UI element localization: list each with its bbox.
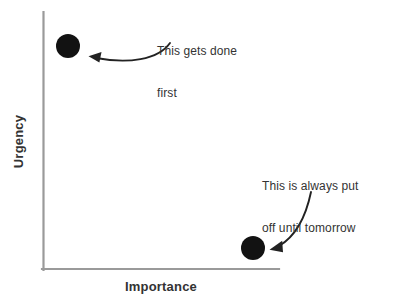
annotation-line-1: This is always put bbox=[262, 179, 359, 193]
annotation-arrow-head-0 bbox=[89, 52, 102, 63]
annotation-line-1: This gets done bbox=[157, 44, 237, 58]
annotation-line-2: off until tomorrow bbox=[262, 221, 359, 235]
annotation-text-gets-done-first: This gets done first bbox=[157, 16, 237, 128]
annotation-line-2: first bbox=[157, 86, 237, 100]
data-point-high-urgency bbox=[56, 34, 80, 58]
urgency-importance-chart: This gets done first This is always put … bbox=[0, 0, 395, 306]
y-axis-label: Urgency bbox=[11, 102, 26, 182]
annotation-text-put-off-until-tomorrow: This is always put off until tomorrow bbox=[262, 151, 359, 263]
x-axis-label: Importance bbox=[43, 279, 279, 294]
